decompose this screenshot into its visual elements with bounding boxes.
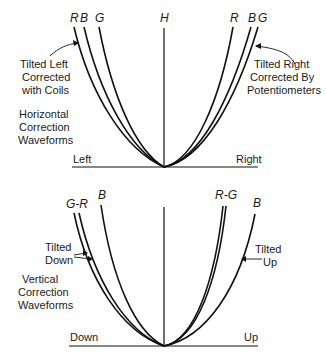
label-right-b: B [248,11,256,25]
curve-right-r [164,206,223,346]
title-vertical-1: Vertical [22,273,58,285]
axis-label-up: Up [244,331,258,343]
annotation-tilted-left-1: Tilted Left [20,58,68,70]
title-horizontal-2: Correction [19,121,70,133]
curve-left-g [99,27,164,167]
arrow-tilted-left [50,43,78,56]
title-vertical-2: Correction [18,286,69,298]
label-left-g: G [95,11,104,25]
label-right-g: G [258,11,267,25]
annotation-tilted-left-3: with Coils [21,84,70,96]
axis-label-left: Left [73,153,91,165]
annotation-tilted-left-2: Corrected [22,71,70,83]
curve-left-b [84,27,164,167]
annotation-tilted-right-1: Tilted Right [254,58,309,70]
curve-right-b [164,27,251,167]
vertical-correction-panel: G-R B R-G B Tilted Down Vertical Correct… [18,188,282,346]
label-left-g-r: G-R [66,197,88,211]
annotation-tilted-down-2: Down [45,254,73,266]
annotation-tilted-right-2: Corrected By [250,71,315,83]
label-left-r: R [70,11,79,25]
arrowhead-icon [255,43,261,49]
label-h: H [160,11,169,25]
title-horizontal-1: Horizontal [19,108,69,120]
annotation-tilted-down-1: Tilted [45,241,72,253]
label-right-b: B [253,196,261,210]
axis-label-down: Down [70,331,98,343]
label-left-b: B [98,188,106,202]
label-right-r-g: R-G [215,188,237,202]
curve-left-r [74,27,164,167]
convergence-waveforms-diagram: R B G H R B G Tilted Left Corrected with… [0,0,326,357]
label-left-b: B [80,11,88,25]
curve-right-g [164,206,226,346]
title-vertical-3: Waveforms [18,299,74,311]
curve-left-r [79,213,164,346]
annotation-tilted-up-2: Up [263,256,277,268]
horizontal-correction-panel: R B G H R B G Tilted Left Corrected with… [18,11,321,167]
label-right-r: R [230,11,239,25]
annotation-tilted-up-1: Tilted [255,243,282,255]
annotation-tilted-right-3: Potentiometers [247,84,321,96]
title-horizontal-3: Waveforms [18,134,74,146]
axis-label-right: Right [236,153,262,165]
